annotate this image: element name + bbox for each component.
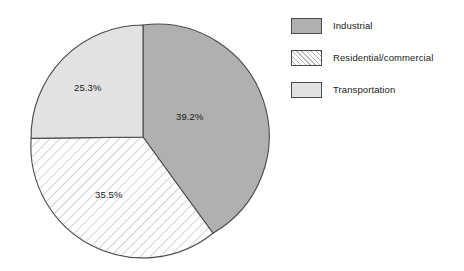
slice-value-label-industrial: 39.2%: [176, 111, 203, 122]
legend-item-transportation[interactable]: Transportation: [291, 81, 461, 98]
legend-label-transportation: Transportation: [333, 84, 395, 95]
pie-svg: [0, 0, 280, 271]
legend-item-industrial[interactable]: Industrial: [291, 17, 461, 34]
legend-swatch-industrial-icon: [291, 18, 322, 34]
slice-value-label-residential: 35.5%: [95, 189, 122, 200]
legend-label-industrial: Industrial: [333, 20, 373, 31]
pie-chart-figure: 39.2% 35.5% 25.3% Industrial Residential…: [0, 0, 464, 271]
slice-value-label-transportation: 25.3%: [74, 82, 101, 93]
legend-swatch-residential-icon: [291, 50, 322, 66]
legend-label-residential: Residential/commercial: [333, 52, 433, 63]
chart-legend: Industrial Residential/commercial Transp…: [291, 17, 461, 113]
chart-plot-area: 39.2% 35.5% 25.3%: [0, 0, 280, 271]
legend-item-residential[interactable]: Residential/commercial: [291, 49, 461, 66]
legend-swatch-transportation-icon: [291, 82, 322, 98]
